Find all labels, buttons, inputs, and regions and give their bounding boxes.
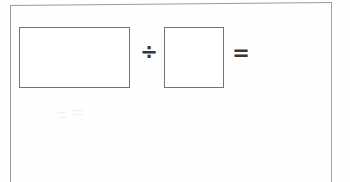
- dividend-answer-box[interactable]: [19, 27, 130, 88]
- divisor-answer-box[interactable]: [164, 27, 224, 88]
- scanned-page: ÷ =: [0, 0, 350, 182]
- division-equation: ÷ =: [0, 0, 350, 182]
- division-operator-icon: ÷: [138, 42, 160, 63]
- equals-operator-icon: =: [228, 43, 254, 64]
